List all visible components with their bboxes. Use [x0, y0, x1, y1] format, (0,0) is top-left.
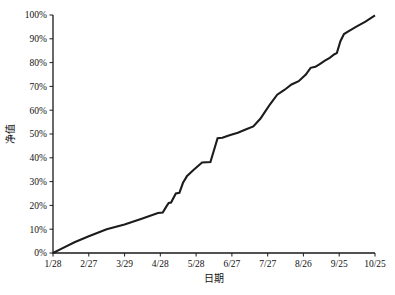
x-axis-tick-label: 2/27	[80, 259, 97, 269]
y-axis-tick-label: 0%	[34, 248, 47, 258]
x-axis-tick-group: 1/282/273/294/285/286/277/278/269/2510/2…	[45, 253, 387, 269]
y-axis-tick-label: 100%	[25, 10, 47, 20]
x-axis-tick-label: 1/28	[45, 259, 62, 269]
x-axis-tick-label: 7/27	[259, 259, 276, 269]
net-value-series-line	[53, 15, 375, 253]
x-axis-tick-label: 5/28	[188, 259, 205, 269]
y-axis-tick-label: 70%	[30, 82, 48, 92]
y-axis-tick-label: 50%	[30, 129, 48, 139]
y-axis-tick-group: 0%10%20%30%40%50%60%70%80%90%100%	[25, 10, 53, 258]
y-axis-tick-label: 30%	[30, 177, 48, 187]
y-axis-title: 净值	[4, 124, 16, 144]
y-axis-tick-label: 90%	[30, 34, 48, 44]
x-axis-tick-label: 3/29	[116, 259, 133, 269]
y-axis-tick-label: 80%	[30, 58, 48, 68]
x-axis-tick-label: 4/28	[152, 259, 169, 269]
chart-container: 0%10%20%30%40%50%60%70%80%90%100% 1/282/…	[0, 0, 395, 295]
y-axis-tick-label: 10%	[30, 225, 48, 235]
axis-lines	[53, 15, 375, 253]
y-axis-tick-label: 40%	[30, 153, 48, 163]
x-axis-tick-label: 6/27	[223, 259, 240, 269]
x-axis-title: 日期	[204, 273, 224, 284]
y-axis-tick-label: 20%	[30, 201, 48, 211]
x-axis-tick-label: 8/26	[295, 259, 312, 269]
y-axis-tick-label: 60%	[30, 106, 48, 116]
line-chart-svg: 0%10%20%30%40%50%60%70%80%90%100% 1/282/…	[0, 0, 395, 295]
x-axis-tick-label: 10/25	[364, 259, 386, 269]
x-axis-tick-label: 9/25	[331, 259, 348, 269]
